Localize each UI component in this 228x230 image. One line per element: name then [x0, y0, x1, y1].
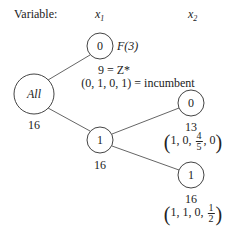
x2-1-solution: (1, 1, 0, 12) [164, 203, 222, 224]
x2-0-node-label: 0 [188, 96, 194, 111]
root-node-bound: 16 [28, 119, 40, 132]
x1-0-incumbent: (0, 1, 0, 1) = incumbent [81, 77, 194, 90]
root-node-label: All [27, 87, 41, 102]
variable-label: Variable: [14, 8, 57, 21]
x1-1-node-bound: 16 [94, 159, 106, 172]
edge-root-x1-1 [48, 108, 90, 131]
x1-0-node-label: 0 [97, 39, 103, 54]
column-x2-label: x2 [188, 8, 197, 25]
x1-0-node-status: F(3) [117, 40, 138, 53]
x2-0-solution: (1, 0, 45, 0) [164, 131, 222, 152]
column-x1-label: x1 [95, 8, 104, 25]
x1-1-node-label: 1 [97, 133, 103, 148]
x2-1-node-label: 1 [188, 168, 194, 183]
